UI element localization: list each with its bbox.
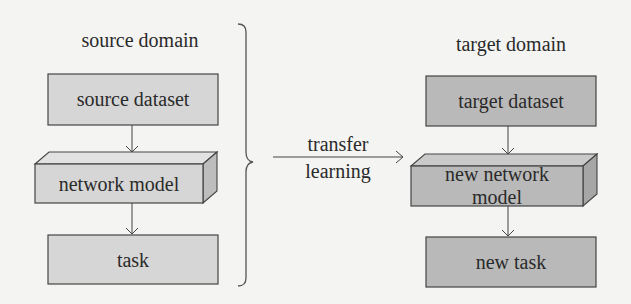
source-domain-title: source domain [48, 29, 232, 51]
brace [238, 24, 253, 286]
network-model-label: network model [35, 173, 203, 195]
task-label: task [48, 249, 218, 271]
transfer-label: transfer [273, 133, 403, 155]
target-domain-title: target domain [426, 33, 596, 55]
new-network-model-label-line1: new network [411, 163, 583, 185]
learning-label: learning [273, 160, 403, 182]
target-dataset-label: target dataset [426, 90, 596, 112]
source-dataset-label: source dataset [48, 88, 218, 110]
new-network-model-label-line2: model [411, 186, 583, 208]
new-task-label: new task [426, 251, 596, 273]
